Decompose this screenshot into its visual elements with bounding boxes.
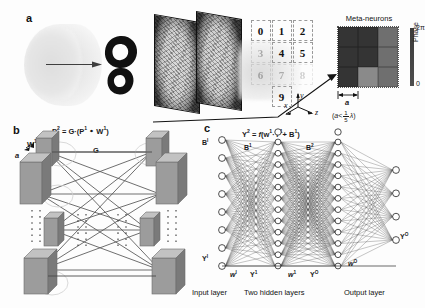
- panel-b-edge-0-1: [48, 152, 160, 194]
- meta-neuron-panel: Meta-neurons 2π Phase 0 a (a< 1 5 λ): [334, 14, 425, 126]
- panel-c-bias-node-1: [335, 129, 341, 135]
- panel-c-edge-L2-3-0: [341, 170, 393, 176]
- panel-c-output-label: YO: [400, 232, 408, 240]
- c-y1-sup: 1: [255, 270, 258, 275]
- panel-c-edge-L2-0-0: [341, 142, 393, 170]
- panel-c-node-hidden1-3: [275, 173, 281, 179]
- panel-c-edge-L2-4-3: [341, 187, 393, 240]
- panel-c-output-layer-caption: Output layer: [344, 288, 385, 297]
- lattice-cond-numerator: 1: [343, 110, 348, 117]
- lattice-period-label: a: [345, 98, 349, 107]
- panel-c-edge-L2-0-3: [341, 142, 393, 240]
- panel-c-edge-L2-2-1: [341, 165, 393, 194]
- panel-c-node-hidden2-5: [335, 195, 341, 201]
- panel-c-input-activation-label: YI: [202, 254, 208, 262]
- digit-cell-7: 7: [272, 64, 292, 85]
- panel-c-edge-L2-5-3: [341, 198, 393, 240]
- c-y0-sup: O: [315, 270, 319, 275]
- phase-colorbar-axis-label: Phase: [412, 22, 419, 42]
- panel-c-edge-L0-0-0: [225, 140, 275, 142]
- meta-neuron-array: [337, 26, 399, 88]
- panel-c-hidden-layers-caption: Two hidden layers: [244, 288, 304, 297]
- metasurface-plate-2: [196, 11, 242, 111]
- meta-neuron-cell-r1-c2: [378, 47, 398, 67]
- panel-c-edge-L2-11-1: [341, 193, 393, 266]
- panel-c-edge-L2-9-2: [341, 217, 393, 244]
- panel-c-input-layer-caption: Input layer: [192, 288, 227, 297]
- panel-c-node-hidden2-2: [335, 162, 341, 168]
- panel-c-node-output-2: [393, 213, 400, 220]
- digit-cell-5: 5: [293, 42, 313, 63]
- panel-c-edge-L0-7-9: [225, 243, 275, 266]
- panel-c-node-input-0: [219, 137, 226, 144]
- panel-a-optical-stack: 0123456789 Meta-neurons 2π Phase 0 a (a<…: [148, 4, 425, 130]
- panel-b: b P2 = G·(P1 ∘ W1) W1 W2 G a: [0, 118, 205, 308]
- digit-cell-1: 1: [272, 20, 292, 41]
- panel-c-node-hidden1-1: [275, 150, 281, 156]
- c-yi-sup: I: [207, 254, 208, 259]
- meta-neuron-cell-r1-c0: [338, 47, 358, 67]
- c-b2-sup: 2: [311, 143, 314, 148]
- digit-cell-0: 0: [251, 20, 271, 41]
- phase-colorbar-min-label: 0: [416, 80, 420, 87]
- panel-c-edge-L2-1-3: [341, 153, 393, 240]
- panel-c-node-hidden2-0: [335, 139, 341, 145]
- panel-c-node-hidden1-6: [275, 207, 281, 213]
- axis-label-y: y: [299, 91, 304, 100]
- metasurface-plate-1: [154, 14, 200, 114]
- panel-c-node-hidden2-4: [335, 184, 341, 190]
- c-yo-sup: O: [405, 232, 409, 237]
- panel-c-node-hidden1-7: [275, 218, 281, 224]
- focused-digit-eight-spot: [100, 34, 140, 100]
- panel-c-y0-label: YO: [310, 270, 318, 278]
- panel-b-left-meta-neuron-1: [20, 153, 51, 204]
- c-w1-sup: 1: [293, 270, 296, 275]
- panel-b-meta-neuron-network: [0, 118, 205, 308]
- panel-c-edge-L2-9-0: [341, 170, 393, 243]
- meta-neuron-cell-r2-c0: [338, 67, 358, 87]
- panel-c-node-input-3: [219, 191, 226, 198]
- panel-c-node-hidden2-6: [335, 207, 341, 213]
- panel-c-node-hidden1-8: [275, 229, 281, 235]
- panel-c-node-hidden1-9: [275, 241, 281, 247]
- panel-c-node-hidden1-2: [275, 162, 281, 168]
- panel-c-node-input-1: [219, 155, 226, 162]
- plate-1-grain: [155, 15, 199, 113]
- digit-cell-8: 8: [293, 64, 313, 85]
- panel-c-node-hidden2-9: [335, 241, 341, 247]
- panel-b-right-meta-neuron-1: [156, 153, 187, 204]
- panel-a: a: [0, 0, 160, 125]
- panel-c-node-input-5: [219, 227, 226, 234]
- panel-c-node-hidden2-8: [335, 229, 341, 235]
- figure-root: a 0123456789: [0, 0, 425, 308]
- coordinate-axes-triad: x y z: [284, 86, 326, 118]
- panel-c-y1-label: Y1: [250, 270, 257, 278]
- panel-b-left-meta-neuron-3: [24, 249, 57, 294]
- panel-b-left-meta-neuron-2: [44, 212, 64, 246]
- panel-c-edge-L2-8-1: [341, 193, 393, 232]
- panel-c-node-output-3: [393, 237, 400, 244]
- panel-c-edge-L0-7-10: [225, 255, 275, 266]
- meta-neuron-cell-r2-c1: [358, 67, 378, 87]
- panel-c-edge-L0-3-1: [225, 153, 275, 194]
- panel-c-node-hidden1-10: [275, 252, 281, 258]
- panel-c-node-input-2: [219, 173, 226, 180]
- panel-c-node-hidden1-0: [275, 139, 281, 145]
- panel-c-edge-L2-1-1: [341, 153, 393, 193]
- meta-neuron-cell-r1-c1: [358, 47, 378, 67]
- panel-b-right-meta-neuron-3: [152, 249, 185, 294]
- meta-neuron-cell-r0-c0: [338, 27, 358, 47]
- c-wo-sup: O: [353, 259, 357, 264]
- plate-2-grain: [197, 12, 241, 110]
- panel-c-node-input-6: [219, 245, 226, 252]
- digit-cell-3: 3: [251, 42, 271, 63]
- panel-c-connection-lines: [225, 140, 392, 266]
- meta-neurons-title: Meta-neurons: [336, 14, 402, 23]
- panel-c-node-input-4: [219, 209, 226, 216]
- panel-c-edge-L0-3-3: [225, 176, 275, 194]
- panel-c-node-hidden2-10: [335, 252, 341, 258]
- digit-cell-2: 2: [293, 20, 313, 41]
- panel-c-edge-L2-10-2: [341, 217, 393, 255]
- meta-neuron-cell-r0-c1: [358, 27, 378, 47]
- panel-c-w-input-label: wI: [230, 270, 237, 278]
